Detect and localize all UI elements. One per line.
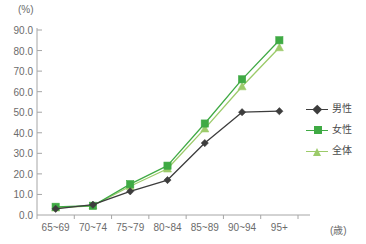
- series-line: [56, 111, 280, 209]
- marker-square: [164, 162, 171, 169]
- legend-item-3[interactable]: 全体: [306, 145, 352, 157]
- marker-square: [201, 120, 208, 127]
- chart-container: (%) (歳) 90.080.070.060.050.040.030.020.0…: [0, 0, 366, 244]
- series-3: [52, 43, 284, 211]
- marker-square: [127, 181, 134, 188]
- legend-diamond-swatch: [313, 104, 322, 113]
- series-1: [52, 108, 283, 213]
- series-2: [52, 37, 283, 211]
- legend-marker-square-icon: [306, 124, 328, 136]
- legend-item-2[interactable]: 女性: [306, 124, 352, 136]
- chart-legend: 男性女性全体: [306, 103, 352, 157]
- legend-item-1[interactable]: 男性: [306, 103, 352, 115]
- marker-square: [238, 76, 245, 83]
- legend-triangle-swatch: [313, 148, 321, 156]
- legend-marker-triangle-icon: [306, 145, 328, 157]
- marker-square: [276, 37, 283, 44]
- legend-label: 全体: [332, 145, 352, 157]
- legend-marker-diamond-icon: [306, 103, 328, 115]
- legend-label: 男性: [332, 103, 352, 115]
- marker-triangle: [275, 43, 283, 50]
- legend-square-swatch: [314, 126, 322, 134]
- legend-label: 女性: [332, 124, 352, 136]
- marker-diamond: [276, 108, 283, 115]
